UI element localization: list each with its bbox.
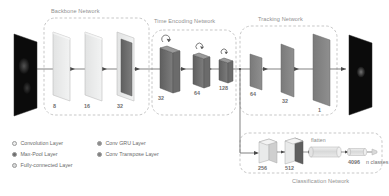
classification-label-4096: 4096 [348, 160, 360, 165]
group-title-backbone: Backbone Network [51, 9, 100, 15]
legend-label-conv-transpose-layer: Conv Transpose Layer [105, 152, 158, 157]
architecture-diagram: Backbone Network Time Encoding Network T… [0, 0, 389, 196]
backbone-layer-8 [53, 32, 70, 101]
tracking-label-64: 64 [250, 92, 256, 97]
legend-label-fully-connected-layer: Fully-connected Layer [20, 163, 72, 168]
legend-label-convolution-layer: Convolution Layer [20, 141, 63, 146]
time-encoding-layer-32 [160, 46, 180, 93]
legend-swatch-fully-connected-icon [12, 163, 17, 168]
tracking-layer-32 [281, 44, 294, 97]
time-encoding-label-128: 128 [219, 86, 228, 91]
legend-label-max-pool-layer: Max-Pool Layer [20, 152, 57, 157]
legend-swatch-max-pool-icon [12, 152, 17, 157]
legend-item-fully-connected-layer: Fully-connected Layer [12, 163, 73, 168]
legend-swatch-conv-gru-icon [97, 141, 102, 146]
classification-label-256: 256 [258, 166, 267, 171]
time-encoding-label-32: 32 [158, 96, 164, 101]
tracking-layer-1 [313, 34, 330, 106]
backbone-layer-32 [117, 32, 134, 101]
backbone-label-16: 16 [84, 104, 90, 109]
classification-label-512: 512 [285, 166, 294, 171]
time-encoding-layer-64 [193, 53, 210, 88]
classification-layer-256 [259, 139, 277, 163]
time-encoding-layer-128 [219, 58, 233, 83]
legend: Convolution Layer Max-Pool Layer Fully-c… [12, 141, 192, 177]
classification-layer-n-classes [372, 149, 377, 155]
time-encoding-label-64: 64 [194, 91, 200, 96]
group-title-tracking: Tracking Network [258, 17, 303, 23]
classification-layer-flatten-fc [309, 147, 341, 157]
backbone-maxpool-overlay [121, 39, 132, 96]
legend-item-conv-transpose-layer: Conv Transpose Layer [97, 152, 159, 157]
legend-item-convolution-layer: Convolution Layer [12, 141, 63, 146]
classification-label-flatten: flatten [311, 138, 326, 143]
tracking-layer-64 [250, 54, 262, 90]
output-heatmap [349, 35, 372, 115]
input-frame [14, 34, 37, 116]
tracking-label-1: 1 [318, 108, 321, 113]
legend-label-conv-gru-layer: Conv GRU Layer [105, 141, 145, 146]
tracking-label-32: 32 [282, 99, 288, 104]
classification-layer-4096 [347, 149, 366, 156]
legend-swatch-convolution-icon [12, 141, 17, 146]
backbone-label-8: 8 [53, 104, 56, 109]
legend-swatch-conv-transpose-icon [97, 152, 102, 157]
legend-item-max-pool-layer: Max-Pool Layer [12, 152, 57, 157]
backbone-label-32: 32 [117, 104, 123, 109]
legend-item-conv-gru-layer: Conv GRU Layer [97, 141, 146, 146]
group-title-time-encoding: Time Encoding Network [154, 19, 215, 25]
classification-layer-512 [285, 138, 303, 164]
group-title-classification: Classification Network [292, 179, 349, 185]
classification-label-n-classes: n classes [366, 160, 388, 165]
backbone-layer-16 [85, 32, 102, 101]
